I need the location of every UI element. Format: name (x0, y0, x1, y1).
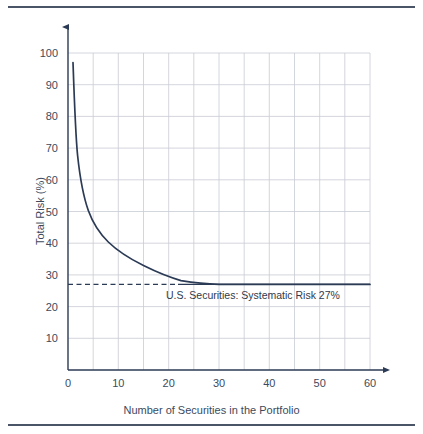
y-tick-label: 10 (28, 333, 58, 344)
y-tick-label: 100 (28, 48, 58, 59)
x-tick-label: 50 (305, 378, 335, 389)
x-tick-label: 40 (254, 378, 284, 389)
y-tick-label: 80 (28, 111, 58, 122)
systematic-risk-annotation: U.S. Securities: Systematic Risk 27% (166, 289, 340, 301)
chart-plot-area (0, 0, 423, 434)
y-tick-label: 70 (28, 143, 58, 154)
y-tick-label: 20 (28, 302, 58, 313)
x-tick-label: 10 (103, 378, 133, 389)
x-tick-label: 20 (154, 378, 184, 389)
x-tick-label: 30 (204, 378, 234, 389)
figure-container: 100 90 80 70 60 50 40 30 20 10 0 10 20 3… (0, 0, 423, 434)
y-axis-title: Total Risk (%) (34, 177, 46, 245)
y-tick-label: 90 (28, 80, 58, 91)
x-tick-label: 60 (355, 378, 385, 389)
x-tick-label: 0 (53, 378, 83, 389)
y-tick-label: 30 (28, 270, 58, 281)
total-risk-curve (73, 63, 370, 285)
x-axis-title: Number of Securities in the Portfolio (0, 404, 423, 416)
